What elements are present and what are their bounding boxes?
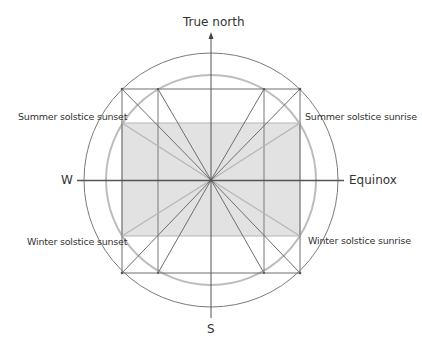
summer-solstice-sunset-label: Summer solstice sunset	[18, 112, 127, 122]
summer-solstice-sunrise-label: Summer solstice sunrise	[305, 112, 417, 122]
north-arrow-icon	[209, 32, 214, 39]
true-north-label: True north	[183, 16, 245, 28]
south-label: S	[207, 323, 215, 335]
winter-solstice-sunset-label: Winter solstice sunset	[27, 237, 127, 247]
winter-solstice-sunrise-label: Winter solstice sunrise	[308, 236, 411, 246]
equinox-label: Equinox	[349, 174, 397, 186]
west-label: W	[61, 174, 73, 186]
